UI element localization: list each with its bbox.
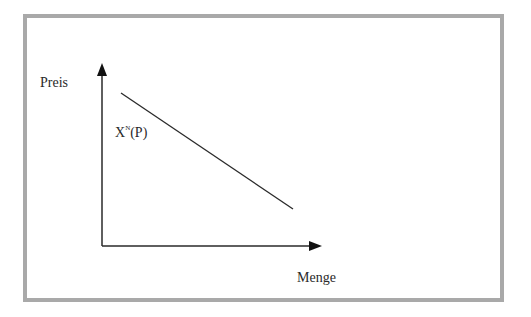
demand-curve-line — [121, 93, 293, 209]
y-axis-arrowhead-icon — [97, 63, 107, 76]
x-axis-arrowhead-icon — [309, 241, 322, 251]
y-axis-label: Preis — [40, 76, 68, 90]
curve-label: XN(P) — [115, 126, 147, 140]
curve-label-name: X — [115, 125, 125, 140]
demand-diagram — [0, 0, 531, 317]
curve-label-argument: (P) — [130, 125, 147, 140]
curve-label-superscript: N — [125, 124, 130, 132]
x-axis-label: Menge — [297, 271, 336, 285]
